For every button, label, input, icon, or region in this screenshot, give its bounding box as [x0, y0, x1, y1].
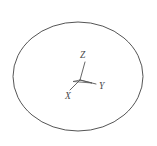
axis-tripod: Z Y X — [64, 50, 106, 101]
axis-label-x: X — [64, 91, 72, 101]
outer-ellipse — [13, 22, 143, 131]
axis-label-y: Y — [99, 81, 106, 91]
axis-line-z — [80, 62, 85, 80]
axis-label-z: Z — [80, 50, 86, 60]
axis-vertex-fan — [73, 80, 92, 83]
figure-canvas: Z Y X — [0, 0, 157, 146]
figure-svg: Z Y X — [0, 0, 157, 146]
